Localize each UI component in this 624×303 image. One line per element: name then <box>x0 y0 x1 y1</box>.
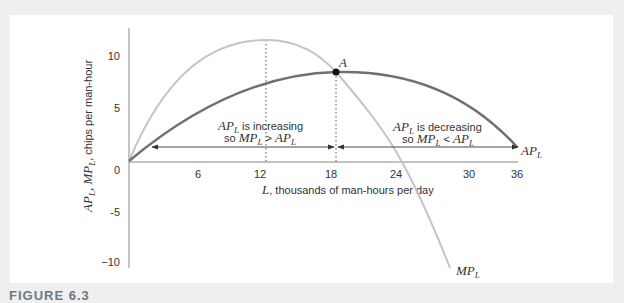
y-axis-label: APL, MPL, chips per man-hour <box>80 60 97 213</box>
mp-curve-label: MPL <box>455 263 480 280</box>
figure-caption: FIGURE 6.3 <box>9 288 90 303</box>
x-axis-label: L, thousands of man-hours per day <box>261 182 434 197</box>
y-tick: -5 <box>110 206 120 218</box>
y-tick: −10 <box>101 256 120 268</box>
x-tick: 18 <box>325 168 337 180</box>
point-a-label: A <box>338 55 347 70</box>
x-tick: 36 <box>511 168 523 180</box>
increasing-note-line2: so MPL > APL <box>224 130 296 147</box>
ap-curve-label: APL <box>520 143 542 160</box>
x-tick: 24 <box>390 168 402 180</box>
decreasing-note-line2: so MPL < APL <box>402 131 474 148</box>
x-tick: 6 <box>195 168 201 180</box>
ap-curve <box>129 72 517 161</box>
x-tick: 30 <box>463 168 475 180</box>
y-tick-labels: 10 5 0 -5 −10 <box>101 50 120 268</box>
mp-curve <box>129 40 450 268</box>
y-tick: 0 <box>114 164 120 176</box>
y-tick: 5 <box>114 102 120 114</box>
y-tick: 10 <box>108 50 120 62</box>
x-tick-labels: 6 12 18 24 30 36 <box>195 168 523 180</box>
x-tick: 12 <box>254 168 266 180</box>
